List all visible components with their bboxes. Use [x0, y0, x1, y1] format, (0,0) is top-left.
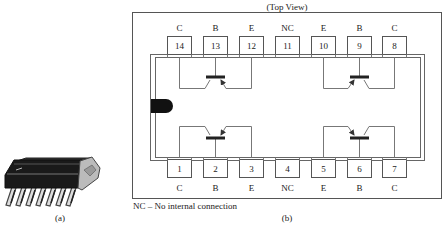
pin-label: C	[391, 23, 397, 33]
figure-b-caption: (b)	[282, 213, 293, 223]
pin-label: NC	[281, 23, 294, 33]
pin-5: 5 E	[312, 160, 336, 194]
pin-label: B	[356, 183, 362, 193]
pin-number: 8	[392, 41, 397, 51]
pin-label: B	[356, 23, 362, 33]
transistor-base-bar	[350, 137, 369, 140]
pin-2: 2 B	[204, 160, 228, 194]
pin-label: E	[249, 183, 255, 193]
pin-label: B	[212, 23, 218, 33]
pin-12: 12 E	[240, 23, 264, 55]
diagram-canvas: (a) (Top View) 14 C 13 B 12	[0, 0, 443, 225]
pin-1: 1 C	[168, 160, 192, 194]
dip-package-illustration: (a)	[5, 157, 100, 223]
pin-11: 11 NC	[276, 23, 300, 55]
pinout-diagram: (Top View) 14 C 13 B 12 E	[133, 2, 442, 223]
pin-9: 9 B	[348, 23, 372, 55]
pin-14: 14 C	[168, 23, 192, 55]
pin-6: 6 B	[348, 160, 372, 194]
pin-number: 9	[357, 41, 362, 51]
top-pin-row: 14 C 13 B 12 E 11 NC 10 E	[168, 23, 407, 55]
transistor-base-bar	[206, 137, 225, 140]
pin-13: 13 B	[204, 23, 228, 55]
pin-number: 13	[211, 41, 221, 51]
transistor-base-bar	[206, 76, 225, 79]
pin-number: 1	[177, 164, 182, 174]
pin-number: 3	[249, 164, 254, 174]
pin-label: E	[321, 183, 327, 193]
pin-label: C	[391, 183, 397, 193]
package-pins	[6, 187, 76, 206]
pin-4: 4 NC	[276, 160, 300, 194]
pin-label: E	[321, 23, 327, 33]
pin-number: 10	[319, 41, 329, 51]
pin-number: 14	[175, 41, 185, 51]
pin-label: E	[249, 23, 255, 33]
transistor-base-bar	[350, 76, 369, 79]
pin-8: 8 C	[383, 23, 407, 55]
pin-number: 2	[213, 164, 218, 174]
pin-label: NC	[281, 183, 294, 193]
pin-number: 7	[392, 164, 397, 174]
pin-10: 10 E	[312, 23, 336, 55]
pin-number: 4	[285, 164, 290, 174]
pin-number: 6	[357, 164, 362, 174]
pin-7: 7 C	[383, 160, 407, 194]
figure-a-caption: (a)	[55, 213, 65, 223]
pin-3: 3 E	[240, 160, 264, 194]
nc-footnote: NC – No internal connection	[133, 201, 237, 211]
pin-number: 5	[321, 164, 326, 174]
pin-number: 11	[283, 41, 292, 51]
pin-label: C	[176, 23, 182, 33]
pin-number: 12	[247, 41, 256, 51]
pin-label: B	[212, 183, 218, 193]
pin-label: C	[176, 183, 182, 193]
bottom-pin-row: 1 C 2 B 3 E 4 NC 5 E	[168, 160, 407, 194]
top-view-title: (Top View)	[267, 2, 308, 12]
